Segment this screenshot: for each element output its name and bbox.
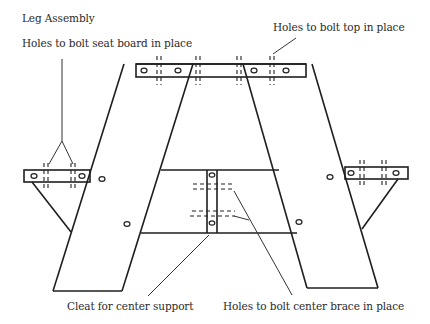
center-cleat	[141, 170, 297, 233]
top-board	[136, 56, 306, 85]
leader-brace-2	[234, 216, 249, 220]
left-brace	[32, 182, 71, 232]
left-leg-hole-2	[124, 222, 130, 227]
right-leg	[243, 64, 378, 288]
right-brace	[362, 179, 398, 229]
leg-assembly-diagram	[0, 0, 430, 324]
right-seat-cleat	[345, 160, 408, 187]
leader-top	[273, 38, 296, 54]
left-leg	[53, 64, 193, 291]
top-hole-2	[175, 68, 181, 73]
right-leg-hole-2	[296, 220, 302, 225]
top-hole-1	[141, 68, 147, 73]
top-hole-3	[251, 68, 257, 73]
right-leg-hole-1	[327, 175, 333, 180]
leader-seat-left	[49, 141, 62, 164]
left-leg-hole-1	[99, 177, 105, 182]
leader-seat-right	[62, 141, 73, 164]
top-hole-4	[283, 68, 289, 73]
leader-cleat	[148, 235, 209, 296]
left-seat-cleat	[24, 163, 90, 190]
